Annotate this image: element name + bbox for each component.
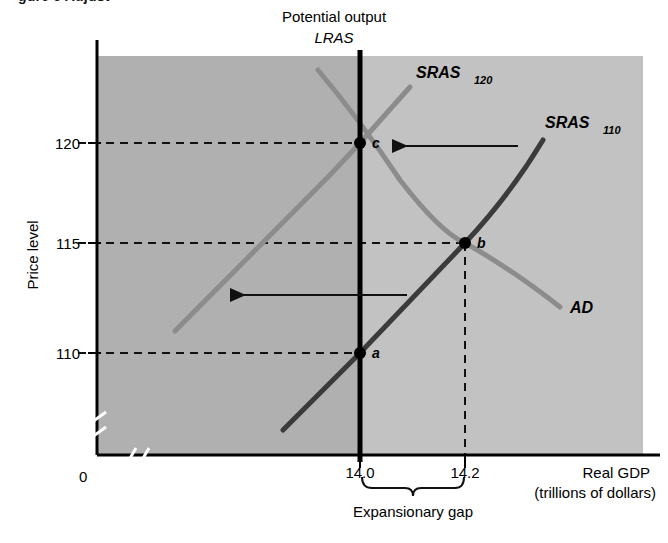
curve-sublabel-sras-110: 110 bbox=[603, 124, 621, 136]
potential-output-label: Potential output bbox=[282, 8, 387, 25]
figure-container: gure 5 Adjust bbox=[0, 0, 668, 543]
curve-label-ad: AD bbox=[569, 299, 594, 316]
point-a bbox=[354, 347, 366, 359]
point-label-c: c bbox=[372, 135, 380, 151]
point-label-b: b bbox=[477, 235, 486, 251]
y-tick-label-120: 120 bbox=[55, 135, 80, 152]
y-axis-title: Price level bbox=[24, 220, 41, 289]
curve-label-sras-110: SRAS bbox=[545, 114, 590, 131]
x-tick-label-14-0: 14.0 bbox=[345, 464, 374, 481]
origin-label: 0 bbox=[79, 468, 87, 485]
x-tick-label-14-2: 14.2 bbox=[450, 464, 479, 481]
y-tick-label-115: 115 bbox=[56, 235, 80, 252]
point-c bbox=[354, 137, 366, 149]
expansionary-gap-label: Expansionary gap bbox=[353, 503, 473, 520]
y-tick-label-110: 110 bbox=[56, 345, 80, 362]
lras-label: LRAS bbox=[314, 29, 353, 46]
curve-label-sras-120: SRAS bbox=[416, 64, 461, 81]
point-label-a: a bbox=[372, 345, 380, 361]
curve-sublabel-sras-120: 120 bbox=[474, 74, 493, 86]
expansionary-gap-brace bbox=[362, 477, 464, 496]
point-b bbox=[459, 237, 471, 249]
x-axis-title-line1: Real GDP bbox=[582, 464, 650, 481]
ad-as-diagram: Potential output LRAS SRAS 120 SRAS 110 … bbox=[0, 0, 668, 543]
x-axis-title-line2: (trillions of dollars) bbox=[534, 484, 656, 501]
